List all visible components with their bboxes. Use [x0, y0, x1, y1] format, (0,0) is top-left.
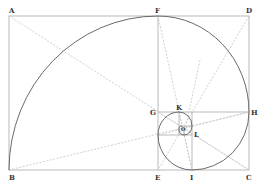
- diagonal-lines: [9, 16, 249, 170]
- point-labels: A F D B E I C G H K L O: [8, 6, 258, 182]
- label-G: G: [150, 108, 156, 117]
- golden-spiral-diagram: A F D B E I C G H K L O: [0, 0, 263, 185]
- label-D: D: [246, 6, 252, 15]
- label-K: K: [176, 103, 183, 112]
- diagonal-DE: [158, 16, 249, 170]
- label-B: B: [9, 173, 15, 182]
- label-H: H: [251, 108, 258, 117]
- diagonal-KI: [179, 112, 192, 170]
- label-F: F: [155, 6, 160, 15]
- diagonal-AC: [9, 16, 249, 170]
- label-O: O: [181, 126, 186, 132]
- label-I: I: [190, 173, 193, 182]
- label-L: L: [194, 130, 199, 139]
- label-C: C: [246, 173, 252, 182]
- label-A: A: [8, 6, 15, 15]
- label-E: E: [155, 173, 160, 182]
